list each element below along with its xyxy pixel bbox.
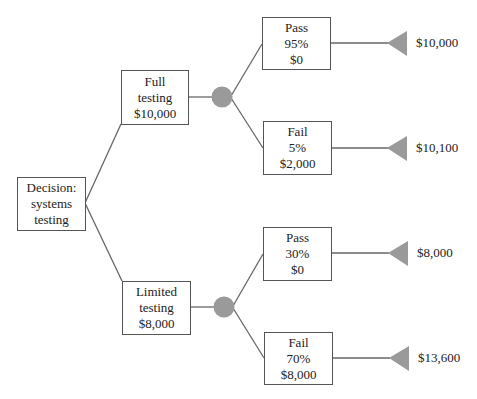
payoff-full-pass: $10,000 bbox=[416, 35, 458, 51]
node-label: systems bbox=[31, 196, 72, 212]
outcome-node-full-pass: Pass 95% $0 bbox=[262, 17, 331, 70]
terminal-node-icon bbox=[388, 241, 408, 266]
node-label: 30% bbox=[286, 246, 310, 262]
node-label: Fail bbox=[287, 124, 307, 140]
node-label: Pass bbox=[286, 230, 309, 246]
terminal-node-icon bbox=[387, 31, 407, 56]
outcome-node-limited-fail: Fail 70% $8,000 bbox=[264, 332, 333, 385]
branch-node-full-testing: Full testing $10,000 bbox=[121, 70, 189, 125]
node-label: testing bbox=[138, 90, 173, 106]
node-label: Full bbox=[145, 74, 166, 90]
node-label: $2,000 bbox=[280, 156, 316, 172]
node-label: 95% bbox=[285, 36, 309, 52]
payoff-full-fail: $10,100 bbox=[416, 140, 458, 156]
node-label: testing bbox=[139, 300, 174, 316]
outcome-node-limited-pass: Pass 30% $0 bbox=[263, 227, 332, 281]
edge-full-pass bbox=[231, 44, 262, 96]
payoff-limited-fail: $13,600 bbox=[418, 350, 460, 366]
chance-node-icon bbox=[212, 87, 233, 108]
edge-full-fail bbox=[231, 98, 263, 148]
terminal-node-icon bbox=[387, 136, 407, 161]
edge-limited-pass bbox=[233, 254, 263, 306]
branch-node-limited-testing: Limited testing $8,000 bbox=[122, 281, 191, 335]
node-label: Decision: bbox=[27, 180, 77, 196]
payoff-limited-pass: $8,000 bbox=[417, 245, 453, 261]
node-label: $0 bbox=[291, 262, 304, 278]
node-label: testing bbox=[34, 212, 69, 228]
node-label: 5% bbox=[289, 140, 306, 156]
chance-node-icon bbox=[214, 297, 235, 318]
node-label: $8,000 bbox=[281, 367, 317, 383]
node-label: Fail bbox=[288, 335, 308, 351]
edge-root-limited bbox=[85, 203, 122, 281]
edge-root-full bbox=[85, 124, 121, 203]
outcome-node-full-fail: Fail 5% $2,000 bbox=[263, 121, 332, 175]
node-label: Limited bbox=[136, 284, 177, 300]
node-label: $8,000 bbox=[139, 316, 175, 332]
node-label: $0 bbox=[290, 52, 303, 68]
node-label: Pass bbox=[285, 20, 308, 36]
decision-node-root: Decision: systems testing bbox=[17, 177, 86, 231]
terminal-node-icon bbox=[389, 346, 409, 371]
node-label: 70% bbox=[287, 351, 311, 367]
node-label: $10,000 bbox=[134, 106, 176, 122]
edge-limited-fail bbox=[233, 308, 264, 358]
